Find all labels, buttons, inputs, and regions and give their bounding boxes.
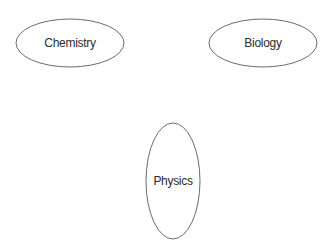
diagram-canvas: Chemistry Biology Physics	[0, 0, 331, 248]
node-biology[interactable]: Biology	[209, 19, 317, 67]
node-physics[interactable]: Physics	[146, 123, 200, 239]
node-biology-label: Biology	[244, 36, 282, 50]
node-chemistry-label: Chemistry	[44, 36, 96, 50]
node-physics-label: Physics	[153, 174, 193, 188]
node-chemistry[interactable]: Chemistry	[16, 19, 124, 67]
diagram-svg: Chemistry Biology Physics	[0, 0, 331, 248]
